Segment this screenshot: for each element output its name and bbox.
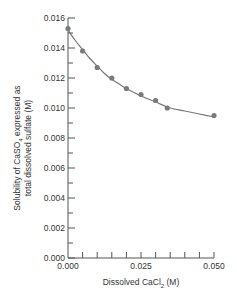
y-axis-title: Solubility of CaSO4 expressed as total d… bbox=[12, 85, 33, 210]
y-tick-label: 0.002 bbox=[44, 223, 66, 233]
data-points bbox=[65, 26, 216, 118]
data-point bbox=[124, 86, 129, 91]
data-point bbox=[109, 75, 114, 80]
tick-labels: 0.0000.0020.0040.0060.0080.0100.0120.014… bbox=[44, 13, 225, 271]
data-point bbox=[95, 65, 100, 70]
data-point bbox=[138, 92, 143, 97]
y-axis-title-line1-pre: Solubility of CaSO bbox=[12, 141, 22, 210]
x-tick-label: 0.050 bbox=[203, 261, 225, 271]
ticks bbox=[68, 18, 214, 258]
y-tick-label: 0.006 bbox=[44, 163, 66, 173]
y-tick-label: 0.012 bbox=[44, 73, 66, 83]
chart: 0.0000.0020.0040.0060.0080.0100.0120.014… bbox=[0, 0, 237, 295]
data-point bbox=[165, 105, 170, 110]
y-tick-label: 0.010 bbox=[44, 103, 66, 113]
data-point bbox=[153, 98, 158, 103]
y-tick-label: 0.014 bbox=[44, 43, 66, 53]
x-axis-title-suffix: (M) bbox=[164, 277, 179, 287]
fit-curve bbox=[68, 30, 214, 117]
y-tick-label: 0.004 bbox=[44, 193, 66, 203]
y-axis-title-line2: total dissolved sulfate (M) bbox=[23, 100, 33, 197]
data-point bbox=[65, 26, 70, 31]
x-tick-label: 0.025 bbox=[130, 261, 152, 271]
x-axis-title: Dissolved CaCl2 (M) bbox=[103, 277, 180, 289]
y-tick-label: 0.008 bbox=[44, 133, 66, 143]
x-tick-label: 0.000 bbox=[57, 261, 79, 271]
y-axis-title-line1-post: expressed as bbox=[12, 85, 22, 138]
y-axis-title-line1: Solubility of CaSO4 expressed as bbox=[12, 85, 24, 210]
y-tick-label: 0.016 bbox=[44, 13, 66, 23]
data-point bbox=[80, 48, 85, 53]
x-axis-title-main: Dissolved CaCl bbox=[103, 277, 161, 287]
data-point bbox=[211, 113, 216, 118]
